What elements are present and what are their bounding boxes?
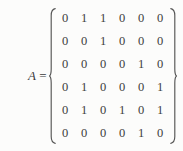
matrix-cell: 0: [62, 58, 68, 71]
matrix-cell: 0: [157, 35, 163, 48]
matrix-cell: 0: [138, 104, 144, 117]
matrix-cell: 1: [81, 104, 87, 117]
matrix-cell: 0: [100, 81, 106, 94]
matrix-cell: 1: [157, 104, 163, 117]
matrix-cell: 0: [62, 81, 68, 94]
matrix-cell: 0: [119, 35, 125, 48]
matrix-cell: 0: [157, 58, 163, 71]
matrix-cell: 0: [100, 58, 106, 71]
matrix-cell: 0: [62, 12, 68, 25]
matrix-cell: 0: [81, 127, 87, 140]
matrix-cell: 1: [138, 58, 144, 71]
matrix-cell: 0: [62, 35, 68, 48]
matrix-cell: 1: [81, 12, 87, 25]
matrix-cell: 0: [119, 12, 125, 25]
matrix-cell: 0: [81, 58, 87, 71]
matrix-container: 0 1 1 0 0 0 0 0 1 0 0 0 0 0 0 0 1 0 0 1 …: [49, 7, 177, 145]
matrix-cell: 0: [157, 127, 163, 140]
matrix-cell: 0: [119, 81, 125, 94]
matrix-cell: 1: [81, 81, 87, 94]
matrix-grid: 0 1 1 0 0 0 0 0 1 0 0 0 0 0 0 0 1 0 0 1 …: [56, 7, 170, 145]
equals-sign: =: [39, 68, 46, 84]
matrix-cell: 0: [100, 127, 106, 140]
right-brace-icon: [170, 7, 177, 145]
matrix-cell: 0: [100, 104, 106, 117]
matrix-cell: 0: [138, 81, 144, 94]
matrix-cell: 0: [62, 104, 68, 117]
matrix-equation: A = 0 1 1 0 0 0 0 0 1 0 0 0 0 0 0 0 1 0 …: [0, 0, 183, 151]
matrix-cell: 1: [100, 12, 106, 25]
matrix-cell: 0: [157, 12, 163, 25]
left-brace-icon: [49, 7, 56, 145]
matrix-cell: 0: [119, 127, 125, 140]
matrix-cell: 1: [138, 127, 144, 140]
matrix-cell: 0: [81, 35, 87, 48]
matrix-cell: 0: [138, 12, 144, 25]
matrix-cell: 1: [157, 81, 163, 94]
matrix-cell: 0: [62, 127, 68, 140]
matrix-cell: 0: [119, 58, 125, 71]
matrix-label: A: [28, 68, 36, 84]
matrix-cell: 1: [119, 104, 125, 117]
matrix-cell: 0: [138, 35, 144, 48]
matrix-cell: 1: [100, 35, 106, 48]
